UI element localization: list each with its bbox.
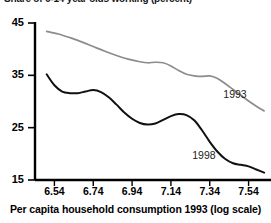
x-axis-title: Per capita household consumption 1993 (l… [0, 203, 271, 215]
x-tick-label-6.74: 6.74 [73, 186, 113, 197]
axis-lines [35, 22, 271, 180]
axis-ticks [28, 23, 249, 186]
y-tick-label-15: 15 [0, 174, 24, 185]
series-lines [47, 31, 264, 172]
x-tick-label-6.54: 6.54 [34, 186, 74, 197]
y-tick-label-35: 35 [0, 69, 24, 80]
x-tick-label-7.34: 7.34 [190, 186, 230, 197]
x-tick-label-7.14: 7.14 [151, 186, 191, 197]
series-label-1993: 1993 [223, 89, 246, 100]
chart-container: Share of 6-14 year olds working (percent… [0, 0, 271, 223]
x-tick-label-6.94: 6.94 [112, 186, 152, 197]
x-tick-label-7.54: 7.54 [229, 186, 269, 197]
y-tick-label-45: 45 [0, 17, 24, 28]
y-tick-label-25: 25 [0, 122, 24, 133]
series-label-1998: 1998 [192, 150, 215, 161]
